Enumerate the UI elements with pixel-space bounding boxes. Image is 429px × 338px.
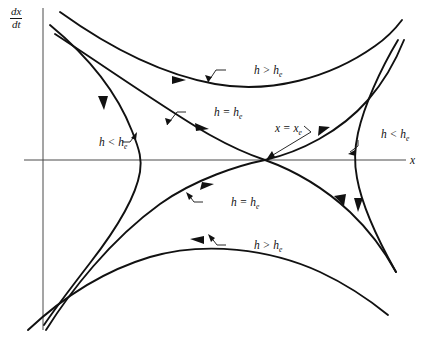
- label-left-orbit: h < he: [73, 136, 147, 151]
- label-upper-sep: h = he: [188, 106, 262, 121]
- x-axis-label: x: [409, 154, 416, 166]
- label-equilibrium-sub: e: [299, 128, 303, 137]
- y-axis-label-denominator: dt: [10, 19, 22, 30]
- label-upper-outer: h > he: [228, 64, 302, 79]
- flow-arrow-lower-orbit: [190, 236, 204, 244]
- label-leader-lines: [122, 70, 358, 245]
- label-lower-outer-sub: e: [279, 245, 283, 254]
- orbit-right-h-less: [355, 40, 398, 272]
- label-lower-outer-lead: h > h: [254, 239, 279, 251]
- curve-labels: h > he h = he x = xe h < he h < he h = h…: [73, 64, 429, 254]
- label-left-orbit-sub: e: [124, 142, 128, 151]
- leader-arrowhead-upper-sep: [165, 118, 172, 125]
- label-equilibrium-lead: x = x: [274, 122, 300, 134]
- flow-arrow-right-orbit: [354, 198, 363, 212]
- label-right-orbit: h < he: [355, 128, 429, 143]
- orbit-left-h-less: [44, 25, 141, 325]
- phase-portrait-canvas: x: [0, 0, 429, 338]
- label-upper-outer-sub: e: [279, 70, 283, 79]
- separatrix-lower-right: [265, 160, 396, 272]
- label-lower-sep: h = he: [205, 196, 279, 211]
- label-upper-sep-sub: e: [239, 112, 243, 121]
- label-upper-outer-lead: h > h: [254, 64, 279, 76]
- separatrix-upper-right: [265, 40, 404, 160]
- label-equilibrium: x = xe: [249, 122, 322, 137]
- label-lower-sep-lead: h = h: [231, 196, 256, 208]
- label-right-orbit-sub: e: [406, 134, 410, 143]
- label-left-orbit-lead: h < h: [99, 136, 124, 148]
- label-upper-sep-lead: h = h: [214, 106, 239, 118]
- leader-arrowhead-upper-outer: [205, 75, 212, 82]
- flow-arrow-upper-separatrix: [195, 123, 209, 131]
- orbit-lower-h-greater: [28, 249, 388, 330]
- phase-portrait-figure: dx dt x: [0, 0, 429, 338]
- label-lower-sep-sub: e: [256, 202, 260, 211]
- y-axis-label: dx dt: [10, 6, 22, 30]
- label-lower-outer: h > he: [228, 239, 302, 254]
- y-axis-label-numerator: dx: [10, 6, 22, 17]
- label-right-orbit-lead: h < h: [381, 128, 406, 140]
- leader-upper-outer: [208, 70, 226, 82]
- flow-arrow-left-orbit: [98, 96, 108, 110]
- flow-arrow-lower-separatrix: [200, 182, 214, 190]
